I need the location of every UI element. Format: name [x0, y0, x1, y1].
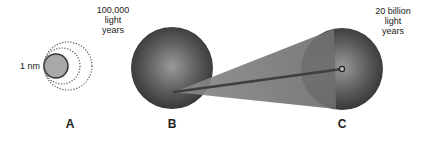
panel-a: 1 nm A	[20, 42, 92, 131]
size-label-b-line1: 100,000	[97, 5, 130, 15]
size-label-b-line3: years	[102, 25, 125, 35]
panel-b: 100,000 light years B	[97, 5, 213, 131]
scale-diagram: 1 nm A 100,000 light years B 20 billion …	[0, 0, 427, 143]
sphere-b	[131, 27, 213, 109]
panel-label-b: B	[168, 117, 177, 131]
size-label-c-line2: light	[385, 16, 402, 26]
size-label-c-line3: years	[382, 26, 405, 36]
size-label-c-line1: 20 billion	[375, 6, 411, 16]
size-label-b-line2: light	[105, 15, 122, 25]
size-label-a: 1 nm	[20, 61, 40, 71]
observer-marker	[339, 66, 344, 71]
panel-label-a: A	[66, 117, 75, 131]
panel-label-c: C	[338, 117, 347, 131]
